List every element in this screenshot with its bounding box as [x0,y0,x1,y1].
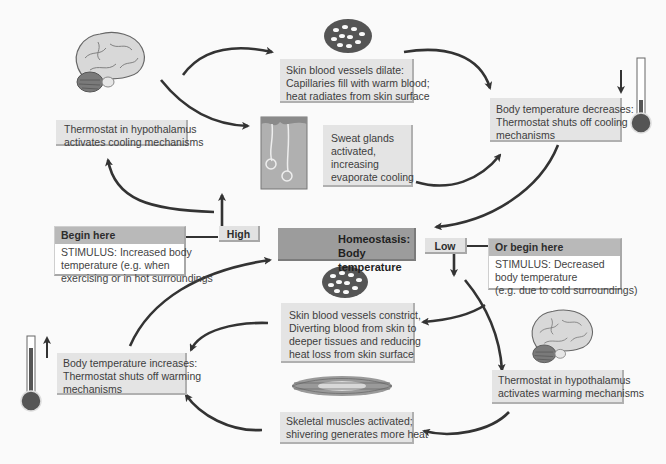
box-line: Sweat glands [331,132,403,145]
box-line: Skeletal muscles activated; [286,415,406,428]
brain-icon [70,28,150,98]
stimulus-line: temperature (e.g. when [61,259,178,272]
homeostasis-diagram: Thermostat in hypothalamus activates coo… [0,0,666,464]
body-temp-increases-box: Body temperature increases: Thermostat s… [57,353,187,395]
box-line: shivering generates more heat [286,428,406,441]
box-line: mechanisms [496,129,614,142]
thermometer-low-icon [628,56,654,136]
muscle-fiber-icon [290,374,394,398]
box-line: Skin blood vessels constrict, [289,309,405,322]
stimulus-line: STIMULUS: Decreased [495,258,614,271]
box-line: activates cooling mechanisms [64,136,178,149]
high-label: High [219,226,260,242]
capillary-network-icon [320,14,376,56]
thermostat-cooling-box: Thermostat in hypothalamus activates coo… [56,120,188,146]
stimulus-heading: Begin here [55,227,184,244]
box-line: Capillaries fill with warm blood; [286,77,406,90]
thermometer-high-icon [18,334,44,414]
box-line: Diverting blood from skin to [289,322,405,335]
box-line: Thermostat shuts off cooling [496,116,614,129]
box-line: increasing [331,158,403,171]
center-line: Homeostasis: [338,232,414,246]
body-temp-decreases-box: Body temperature decreases: Thermostat s… [490,98,622,142]
sweat-gland-icon [260,116,308,190]
center-line: Body temperature [338,246,414,274]
box-line: mechanisms [63,383,179,396]
box-line: Body temperature decreases: [496,103,614,116]
shivering-box: Skeletal muscles activated; shivering ge… [280,412,414,444]
homeostasis-center-box: Homeostasis: Body temperature [278,228,416,261]
box-line: Body temperature increases: [63,357,179,370]
box-line: Skin blood vessels dilate: [286,64,406,77]
brain-icon [522,306,602,368]
vessels-dilate-box: Skin blood vessels dilate: Capillaries f… [280,59,414,103]
low-label: Low [425,238,467,254]
stimulus-decrease-box: Or begin here STIMULUS: Decreased body t… [488,238,622,290]
box-line: heat loss from skin surface [289,348,405,361]
stimulus-heading: Or begin here [489,239,620,256]
box-line: Thermostat shuts off warming [63,370,179,383]
stimulus-line: exercising or in hot surroundings [61,272,178,285]
sweat-glands-box: Sweat glands activated, increasing evapo… [323,125,413,187]
box-line: activated, [331,145,403,158]
stimulus-line: body temperature [495,271,614,284]
box-line: Thermostat in hypothalamus [498,374,616,387]
vessels-constrict-box: Skin blood vessels constrict, Diverting … [281,303,415,363]
stimulus-increase-box: Begin here STIMULUS: Increased body temp… [54,226,186,276]
box-line: deeper tissues and reducing [289,335,405,348]
box-line: activates warming mechanisms [498,387,616,400]
stimulus-line: (e.g. due to cold surroundings) [495,284,614,297]
stimulus-line: STIMULUS: Increased body [61,246,178,259]
box-line: heat radiates from skin surface [286,90,406,103]
box-line: evaporate cooling [331,171,403,184]
box-line: Thermostat in hypothalamus [64,123,178,136]
thermostat-warming-box: Thermostat in hypothalamus activates war… [492,370,624,404]
